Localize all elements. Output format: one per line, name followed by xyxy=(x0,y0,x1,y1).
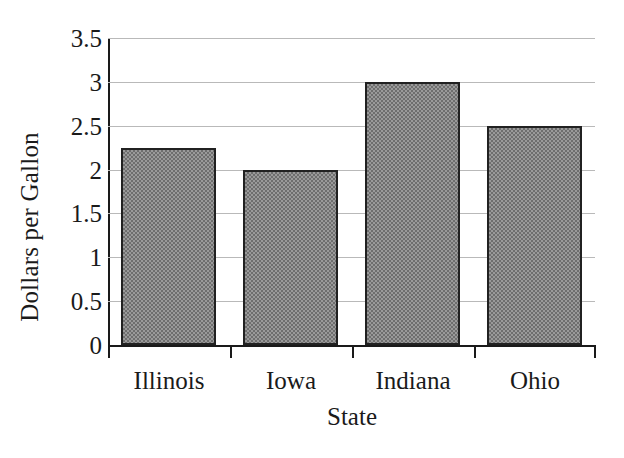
x-axis-tick xyxy=(352,347,354,358)
x-axis-tick xyxy=(594,347,596,358)
x-axis-category-label: Indiana xyxy=(352,362,474,400)
x-axis-tick xyxy=(108,347,110,358)
x-axis-category-label: Iowa xyxy=(230,362,352,400)
bar-slot xyxy=(108,38,230,345)
bar xyxy=(243,170,338,345)
x-axis-title: State xyxy=(108,404,596,429)
y-axis-tick-label: 1.5 xyxy=(48,201,102,226)
y-axis-tick-label: 1 xyxy=(48,245,102,270)
bar-chart: Dollars per Gallon 00.511.522.533.5 Illi… xyxy=(0,0,624,458)
y-axis-tick-label: 2.5 xyxy=(48,113,102,138)
x-axis-ticks xyxy=(108,347,596,358)
y-axis-title: Dollars per Gallon xyxy=(13,67,47,387)
x-axis-tick xyxy=(474,347,476,358)
x-axis-category-labels: IllinoisIowaIndianaOhio xyxy=(108,362,596,400)
bar-slot xyxy=(352,38,474,345)
y-axis-tick-label: 2 xyxy=(48,157,102,182)
bar-slot xyxy=(230,38,352,345)
bar xyxy=(365,82,460,345)
bar xyxy=(121,148,216,345)
bar-slot xyxy=(473,38,595,345)
y-axis-tick-label: 0 xyxy=(48,333,102,358)
x-axis-tick xyxy=(230,347,232,358)
plot-area xyxy=(108,38,595,345)
x-axis-category-label: Ohio xyxy=(474,362,596,400)
bar-series xyxy=(108,38,595,345)
y-axis-tick-label: 0.5 xyxy=(48,289,102,314)
x-axis-category-label: Illinois xyxy=(108,362,230,400)
y-axis-tick-labels: 00.511.522.533.5 xyxy=(48,38,102,345)
y-axis-tick-label: 3 xyxy=(48,69,102,94)
y-axis-tick-label: 3.5 xyxy=(48,26,102,51)
bar xyxy=(487,126,582,345)
